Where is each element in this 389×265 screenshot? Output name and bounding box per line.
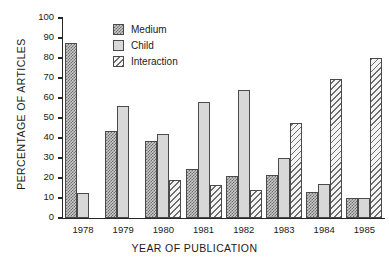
y-tick-label: 0 — [20, 211, 54, 222]
y-tick-mark — [58, 37, 63, 38]
bar-1978-child — [77, 193, 89, 218]
legend-label-child: Child — [131, 40, 154, 51]
y-tick-label: 40 — [20, 131, 54, 142]
legend-item-interaction: Interaction — [113, 53, 178, 69]
x-tick-label-1981: 1981 — [184, 224, 224, 235]
legend-label-interaction: Interaction — [131, 56, 178, 67]
y-tick-mark — [58, 177, 63, 178]
legend-swatch-child-icon — [113, 40, 124, 51]
bar-1978-medium — [65, 43, 77, 218]
y-tick-mark — [58, 197, 63, 198]
legend-label-medium: Medium — [131, 24, 167, 35]
bar-group-1983 — [266, 18, 302, 218]
y-tick-label: 80 — [20, 51, 54, 62]
x-tick-label-1982: 1982 — [224, 224, 264, 235]
x-axis-title: YEAR OF PUBLICATION — [0, 242, 389, 254]
bar-1982-child — [238, 90, 250, 218]
y-tick-mark — [58, 97, 63, 98]
x-tick-label-1983: 1983 — [264, 224, 304, 235]
bar-group-1985 — [346, 18, 382, 218]
legend-swatch-interaction-icon — [113, 56, 124, 67]
bar-1984-interaction — [330, 79, 342, 218]
y-tick-label: 20 — [20, 171, 54, 182]
x-tick-label-1980: 1980 — [143, 224, 183, 235]
bar-chart-figure: PERCENTAGE OF ARTICLES 01020304050607080… — [0, 0, 389, 265]
plot-area: 0102030405060708090100 — [62, 18, 384, 218]
x-tick-label-1984: 1984 — [304, 224, 344, 235]
legend-item-child: Child — [113, 37, 178, 53]
bar-1980-medium — [145, 141, 157, 218]
y-tick-label: 90 — [20, 31, 54, 42]
bar-1981-interaction — [210, 185, 222, 218]
bar-1982-medium — [226, 176, 238, 218]
y-tick-mark — [58, 137, 63, 138]
bar-1981-child — [198, 102, 210, 218]
y-tick-label: 10 — [20, 191, 54, 202]
bar-group-1981 — [186, 18, 222, 218]
y-tick-mark — [58, 57, 63, 58]
y-tick-mark — [58, 217, 63, 218]
x-tick-label-1978: 1978 — [63, 224, 103, 235]
bar-group-1984 — [306, 18, 342, 218]
bar-1980-interaction — [169, 180, 181, 218]
bar-1984-medium — [306, 192, 318, 218]
y-tick-label: 60 — [20, 91, 54, 102]
y-tick-label: 70 — [20, 71, 54, 82]
bar-group-1978 — [65, 18, 101, 218]
legend-swatch-medium-icon — [113, 24, 124, 35]
bar-1985-medium — [346, 198, 358, 218]
x-tick-label-1979: 1979 — [103, 224, 143, 235]
bar-1985-interaction — [370, 58, 382, 218]
y-tick-mark — [58, 117, 63, 118]
x-tick-label-1985: 1985 — [344, 224, 384, 235]
bar-1983-interaction — [290, 123, 302, 218]
y-tick-mark — [58, 77, 63, 78]
bar-1980-child — [157, 134, 169, 218]
y-tick-mark — [58, 157, 63, 158]
bar-1979-child — [117, 106, 129, 218]
bar-1983-medium — [266, 175, 278, 218]
x-axis-line — [61, 218, 385, 219]
bar-1981-medium — [186, 169, 198, 218]
bar-1984-child — [318, 184, 330, 218]
y-tick-label: 100 — [20, 11, 54, 22]
bar-group-1982 — [226, 18, 262, 218]
bar-1983-child — [278, 158, 290, 218]
y-tick-label: 50 — [20, 111, 54, 122]
y-tick-mark — [58, 17, 63, 18]
bar-1982-interaction — [250, 190, 262, 218]
legend-item-medium: Medium — [113, 21, 178, 37]
bar-1979-medium — [105, 131, 117, 218]
y-tick-label: 30 — [20, 151, 54, 162]
bar-1985-child — [358, 198, 370, 218]
chart-legend: Medium Child Interaction — [113, 21, 178, 69]
